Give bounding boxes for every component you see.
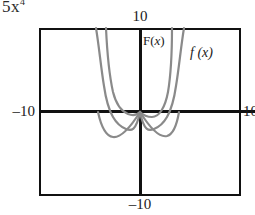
curve-label-F-of-x: F(x) [143, 33, 165, 49]
axis-label-bottom: –10 [129, 196, 152, 213]
y-axis [139, 28, 142, 196]
axis-label-right: 10 [243, 103, 255, 120]
curve-label-f-of-x: f (x) [190, 45, 213, 61]
formula-fragment-exponent: 4 [20, 0, 26, 7]
curve-label-F-prefix: F( [143, 33, 155, 48]
figure-canvas: 5x4 10 –10 –10 10 F(x) f (x) [0, 0, 255, 215]
curve-label-F-suffix: ) [160, 33, 164, 48]
formula-fragment: 5x4 [2, 0, 26, 17]
axis-label-top: 10 [133, 8, 148, 25]
axis-label-left: –10 [13, 103, 36, 120]
formula-fragment-text: 5x [2, 0, 20, 16]
